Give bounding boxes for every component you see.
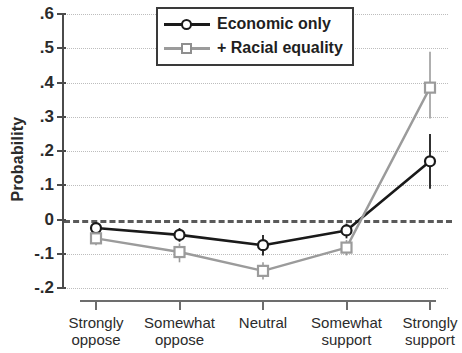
legend-item-racial-equality: + Racial equality bbox=[164, 36, 343, 60]
y-tick-label: .1 bbox=[10, 176, 54, 193]
y-tick-label: .6 bbox=[10, 5, 54, 22]
y-tick-label: .4 bbox=[10, 74, 54, 91]
y-axis-tick-labels: .6.5.4.3.2.10-.1-.2 bbox=[8, 0, 54, 353]
legend-label-racial-equality: + Racial equality bbox=[217, 39, 343, 57]
legend-item-economic-only: Economic only bbox=[164, 12, 343, 36]
legend-swatch-square-icon bbox=[164, 39, 210, 57]
y-tick-label: .3 bbox=[10, 108, 54, 125]
data-point-marker bbox=[175, 230, 185, 240]
x-axis-bracket bbox=[62, 300, 448, 314]
data-point-marker bbox=[258, 240, 268, 250]
y-tick-label: .5 bbox=[10, 39, 54, 56]
data-point-marker bbox=[425, 156, 435, 166]
x-axis-category-labels: StronglyopposeSomewhatopposeNeutralSomew… bbox=[50, 314, 454, 353]
y-tick-label: -.2 bbox=[10, 279, 54, 296]
x-tick-mark bbox=[346, 300, 348, 310]
legend-label-economic-only: Economic only bbox=[217, 15, 331, 33]
data-point-marker bbox=[425, 83, 435, 93]
x-category-label: Stronglysupport bbox=[380, 314, 462, 349]
y-tick-label: -.1 bbox=[10, 245, 54, 262]
data-point-marker bbox=[342, 225, 352, 235]
series-economic-only bbox=[91, 134, 435, 256]
series-line bbox=[96, 161, 430, 245]
x-tick-mark bbox=[179, 300, 181, 310]
y-tick-label: .2 bbox=[10, 142, 54, 159]
x-axis-line bbox=[80, 300, 436, 302]
data-point-marker bbox=[91, 223, 101, 233]
x-tick-mark bbox=[429, 300, 431, 310]
data-point-marker bbox=[342, 243, 352, 253]
legend-swatch-circle-icon bbox=[164, 15, 210, 33]
data-point-marker bbox=[258, 266, 268, 276]
chart-legend: Economic only + Racial equality bbox=[156, 7, 354, 66]
x-tick-mark bbox=[95, 300, 97, 310]
x-tick-mark bbox=[262, 300, 264, 310]
y-tick-label: 0 bbox=[10, 211, 54, 228]
data-point-marker bbox=[175, 247, 185, 257]
data-point-marker bbox=[91, 233, 101, 243]
